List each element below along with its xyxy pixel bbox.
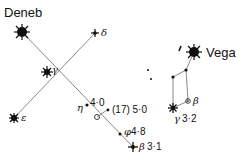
lyra-lines <box>173 52 194 108</box>
field-star-icon <box>147 69 149 71</box>
label-gamma-lyr: γ <box>174 113 180 124</box>
star-zeta-lyr-icon <box>184 68 187 71</box>
star-epsilon-lyr-icon <box>179 46 181 51</box>
label-beta: β <box>138 141 145 152</box>
star-17-icon <box>107 109 110 112</box>
star-gamma-lyr-icon <box>168 103 178 113</box>
star-vega-icon <box>186 44 202 60</box>
label-eta: η <box>77 102 83 113</box>
star-phi-icon <box>119 133 122 136</box>
star-delta-lyr-icon <box>171 75 174 78</box>
star-epsilon-icon <box>9 113 19 123</box>
label-phi-magnitude: 4·8 <box>131 126 146 137</box>
label-deneb: Deneb <box>4 5 42 20</box>
label-epsilon: ε <box>21 112 26 123</box>
star-chart: Deneb γ δ ε η 4·0 (17) 5·0 φ 4·8 <box>0 0 245 166</box>
label-vega: Vega <box>206 45 236 60</box>
star-eta-icon <box>85 103 88 106</box>
cygnus-line-deneb-beta <box>22 32 133 147</box>
label-delta: δ <box>101 27 107 38</box>
label-beta-magnitude: 3·1 <box>147 141 162 152</box>
label-eta-magnitude: 4·0 <box>90 97 105 108</box>
label-gamma-lyr-magnitude: 3·2 <box>182 113 197 124</box>
field-star-icon <box>150 78 152 80</box>
star-beta-lyr-dot-icon <box>187 100 189 102</box>
label-17: (17) 5·0 <box>112 104 147 115</box>
label-gamma: γ <box>52 64 58 75</box>
star-deneb-icon <box>14 24 30 40</box>
label-phi: φ <box>124 126 131 137</box>
label-beta-lyr: β <box>192 95 199 106</box>
